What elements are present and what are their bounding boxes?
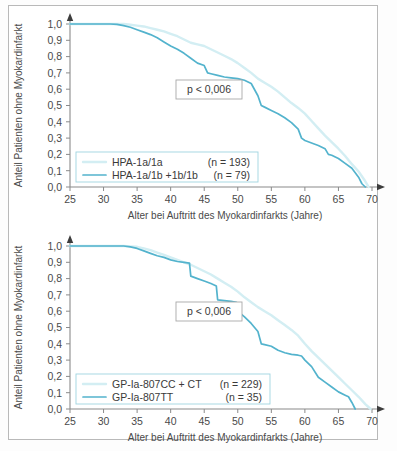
x-axis-title: Alter bei Auftritt des Myokardinfarkts (… <box>128 432 323 443</box>
p-value-label: p < 0,006 <box>187 83 231 95</box>
x-tick-label: 40 <box>165 193 177 205</box>
y-axis-title: Anteil Patienten ohne Myokardinfarkt <box>13 24 24 188</box>
y-tick-label: 0,0 <box>47 403 62 415</box>
x-tick-label: 60 <box>299 193 311 205</box>
p-value-label: p < 0,006 <box>187 305 231 317</box>
x-tick-label: 55 <box>265 193 277 205</box>
legend-n-label: (n = 35) <box>226 391 262 403</box>
y-tick-label: 1,0 <box>47 240 62 252</box>
chart-bottom-svg: 0,00,10,20,30,40,50,60,70,80,91,02530354… <box>0 228 397 446</box>
legend-series-label: HPA-1a/1b +1b/1b <box>112 169 198 181</box>
y-tick-label: 0,6 <box>47 305 62 317</box>
y-tick-label: 0,1 <box>47 165 62 177</box>
y-axis-arrow-icon <box>67 13 73 21</box>
y-tick-label: 0,1 <box>47 387 62 399</box>
x-tick-label: 30 <box>98 193 110 205</box>
x-tick-label: 25 <box>64 415 76 427</box>
figure-container: 0,00,10,20,30,40,50,60,70,80,91,02530354… <box>0 0 397 451</box>
legend-series-label: GP-Ia-807CC + CT <box>112 378 202 390</box>
x-axis-arrow-icon <box>377 406 385 412</box>
x-axis-arrow-icon <box>377 184 385 190</box>
x-tick-label: 35 <box>131 193 143 205</box>
x-tick-label: 70 <box>366 415 378 427</box>
legend-series-label: HPA-1a/1a <box>112 156 163 168</box>
y-tick-label: 0,7 <box>47 289 62 301</box>
x-tick-label: 45 <box>198 193 210 205</box>
y-tick-label: 0,9 <box>47 256 62 268</box>
y-tick-label: 0,2 <box>47 148 62 160</box>
y-tick-label: 0,7 <box>47 67 62 79</box>
y-tick-label: 0,4 <box>47 338 62 350</box>
x-tick-label: 50 <box>232 193 244 205</box>
x-tick-label: 30 <box>98 415 110 427</box>
chart-panel-top: 0,00,10,20,30,40,50,60,70,80,91,02530354… <box>0 6 397 224</box>
x-tick-label: 65 <box>333 193 345 205</box>
y-axis-title: Anteil Patienten ohne Myokardinfarkt <box>13 246 24 410</box>
chart-top-svg: 0,00,10,20,30,40,50,60,70,80,91,02530354… <box>0 6 397 224</box>
y-tick-label: 0,5 <box>47 321 62 333</box>
chart-panel-bottom: 0,00,10,20,30,40,50,60,70,80,91,02530354… <box>0 228 397 446</box>
y-tick-label: 0,5 <box>47 99 62 111</box>
y-tick-label: 0,8 <box>47 50 62 62</box>
x-tick-label: 70 <box>366 193 378 205</box>
x-tick-label: 60 <box>299 415 311 427</box>
x-tick-label: 40 <box>165 415 177 427</box>
y-tick-label: 0,6 <box>47 83 62 95</box>
x-tick-label: 25 <box>64 193 76 205</box>
x-tick-label: 55 <box>265 415 277 427</box>
y-tick-label: 0,2 <box>47 370 62 382</box>
y-tick-label: 0,9 <box>47 34 62 46</box>
x-tick-label: 45 <box>198 415 210 427</box>
y-tick-label: 0,4 <box>47 116 62 128</box>
legend-n-label: (n = 193) <box>208 156 250 168</box>
x-tick-label: 50 <box>232 415 244 427</box>
legend-n-label: (n = 79) <box>214 169 250 181</box>
legend-series-label: GP-Ia-807TT <box>112 391 174 403</box>
x-tick-label: 65 <box>333 415 345 427</box>
x-tick-label: 35 <box>131 415 143 427</box>
y-tick-label: 1,0 <box>47 18 62 30</box>
y-tick-label: 0,3 <box>47 354 62 366</box>
y-axis-arrow-icon <box>67 235 73 243</box>
y-tick-label: 0,3 <box>47 132 62 144</box>
y-tick-label: 0,0 <box>47 181 62 193</box>
legend-n-label: (n = 229) <box>220 378 262 390</box>
y-tick-label: 0,8 <box>47 272 62 284</box>
x-axis-title: Alter bei Auftritt des Myokardinfarkts (… <box>128 210 323 221</box>
